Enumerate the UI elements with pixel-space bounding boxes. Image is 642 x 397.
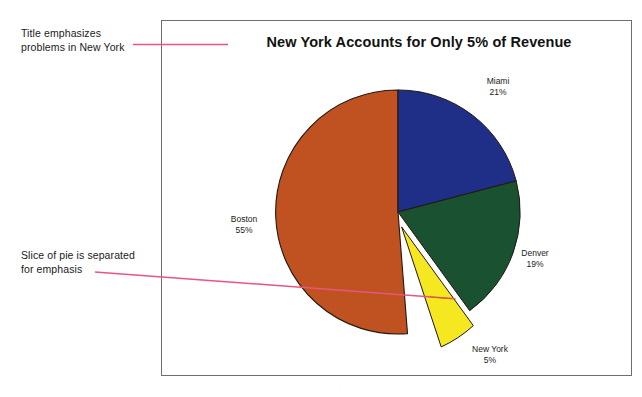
pie-label-boston: Boston 55% [213,214,275,235]
pie-slice-boston[interactable] [276,90,408,334]
pie-label-denver: Denver 19% [505,248,565,269]
figure-canvas: Title emphasizes problems in New York Sl… [0,0,642,397]
pie-label-new-york: New York 5% [459,344,521,365]
scan-artifact: . . . . . . [300,383,450,391]
pie-label-miami: Miami 21% [468,76,528,97]
pie-chart [0,0,642,397]
